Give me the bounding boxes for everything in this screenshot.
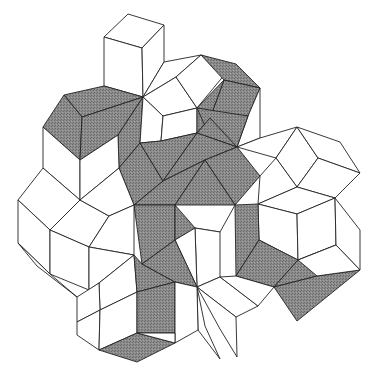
rhombus-tiles [18,14,360,362]
rhombus-tile [175,282,198,343]
penrose-tiling-figure [0,0,374,383]
tiling-canvas [0,0,374,383]
